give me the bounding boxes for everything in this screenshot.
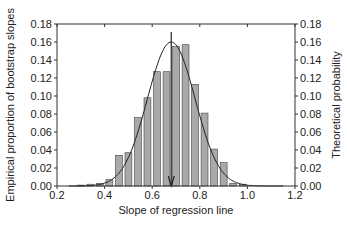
histogram-bar (135, 118, 142, 186)
svg-text:0.18: 0.18 (31, 18, 52, 30)
svg-text:0.16: 0.16 (31, 36, 52, 48)
left-y-axis-ticks: 0.000.020.040.060.080.100.120.140.160.18 (31, 18, 57, 192)
svg-text:1.0: 1.0 (240, 189, 255, 201)
svg-text:1.2: 1.2 (287, 189, 302, 201)
svg-text:0.06: 0.06 (31, 126, 52, 138)
svg-text:0.16: 0.16 (300, 36, 321, 48)
svg-text:0.06: 0.06 (300, 126, 321, 138)
histogram-bar (220, 163, 227, 186)
histogram-chart: 0.000.020.040.060.080.100.120.140.160.18… (0, 0, 347, 226)
histogram-bar (211, 149, 218, 186)
svg-text:0.2: 0.2 (49, 189, 64, 201)
left-y-axis-label: Empirical proportion of bootstrap slopes (4, 8, 16, 202)
histogram-bars (77, 45, 246, 186)
right-y-axis-ticks: 0.000.020.040.060.080.100.120.140.160.18 (295, 18, 321, 192)
histogram-bar (144, 98, 151, 186)
svg-text:0.02: 0.02 (31, 162, 52, 174)
svg-text:0.6: 0.6 (145, 189, 160, 201)
svg-text:0.00: 0.00 (300, 180, 321, 192)
svg-text:0.10: 0.10 (300, 90, 321, 102)
svg-text:0.04: 0.04 (31, 144, 52, 156)
svg-text:0.14: 0.14 (300, 54, 321, 66)
svg-text:0.12: 0.12 (300, 72, 321, 84)
svg-text:0.4: 0.4 (97, 189, 112, 201)
svg-text:0.08: 0.08 (31, 108, 52, 120)
right-y-axis-label: Theoretical probability (330, 51, 342, 159)
svg-text:0.10: 0.10 (31, 90, 52, 102)
svg-text:0.18: 0.18 (300, 18, 321, 30)
histogram-bar (173, 47, 180, 187)
svg-text:0.12: 0.12 (31, 72, 52, 84)
svg-text:0.04: 0.04 (300, 144, 321, 156)
svg-text:0.14: 0.14 (31, 54, 52, 66)
x-axis-label: Slope of regression line (119, 204, 234, 216)
svg-text:0.08: 0.08 (300, 108, 321, 120)
svg-text:0.02: 0.02 (300, 162, 321, 174)
svg-text:0.8: 0.8 (192, 189, 207, 201)
histogram-bar (163, 72, 170, 186)
histogram-bar (154, 72, 161, 186)
